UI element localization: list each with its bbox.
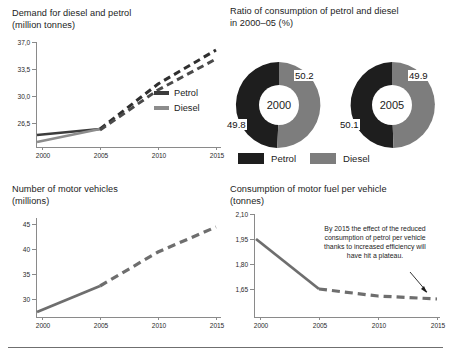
donut-2005-petrol-value: 50.1 (339, 119, 360, 130)
fuel-annotation-arrow-head (421, 286, 427, 293)
chart-panel-fuel: Consumption of motor fuel per vehicle (t… (228, 184, 448, 334)
donut-2000-diesel-value: 50.2 (294, 70, 315, 81)
infographic-page: Demand for diesel and petrol (million to… (0, 0, 451, 361)
vehicles-plot-area: 45 40 35 30 2000 2005 2010 2015 (8, 212, 226, 337)
donut-2000-petrol-value: 49.8 (226, 119, 247, 130)
demand-legend-item-diesel: Diesel (154, 103, 200, 113)
fuel-dashed-line (319, 289, 437, 299)
vehicles-solid-line (37, 286, 100, 312)
chart-panel-vehicles: Number of motor vehicles (millions) 45 4… (8, 184, 226, 334)
vehicles-chart-title: Number of motor vehicles (millions) (12, 184, 222, 207)
demand-chart-title: Demand for diesel and petrol (million to… (12, 8, 222, 31)
fuel-chart-title: Consumption of motor fuel per vehicle (t… (230, 184, 448, 207)
ratio-legend: Petrol Diesel (238, 153, 384, 164)
ratio-legend-label-petrol: Petrol (271, 153, 296, 164)
demand-legend-label-petrol: Petrol (174, 88, 198, 98)
vehicles-series-group (8, 212, 226, 337)
demand-legend-swatch-petrol (154, 91, 169, 94)
vehicles-dashed-line (100, 227, 216, 286)
ratio-legend-label-diesel: Diesel (343, 153, 370, 164)
demand-legend-label-diesel: Diesel (174, 103, 200, 113)
chart-panel-ratio: Ratio of consumption of petrol and diese… (228, 6, 448, 174)
chart-panel-demand: Demand for diesel and petrol (million to… (8, 8, 226, 173)
demand-plot-area: 37,0 33,5 30,0 26,5 2000 2005 2010 2015 (8, 36, 226, 166)
fuel-plot-area: 2,10 1,95 1,80 1,65 2000 2005 2010 2015 (228, 210, 448, 338)
demand-legend-swatch-diesel (154, 106, 169, 109)
ratio-legend-swatch-petrol (238, 153, 264, 164)
bottom-divider (8, 347, 443, 348)
fuel-annotation-text: By 2015 the effect of the reduced consum… (306, 224, 444, 260)
ratio-legend-swatch-diesel (310, 153, 336, 164)
demand-legend: Petrol Diesel (154, 88, 200, 118)
ratio-chart-title: Ratio of consumption of petrol and diese… (230, 6, 448, 29)
demand-legend-item-petrol: Petrol (154, 88, 200, 98)
donut-2005-diesel-value: 49.9 (408, 70, 429, 81)
